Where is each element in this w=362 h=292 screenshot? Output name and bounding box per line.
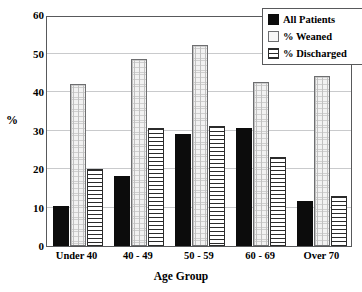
legend-item: % Weaned	[263, 28, 362, 45]
y-axis-tick-label: 10	[4, 202, 44, 214]
y-axis-tick-label: 40	[4, 86, 44, 98]
x-axis-label: Age Group	[0, 270, 362, 282]
legend-swatch-icon	[268, 31, 279, 42]
y-axis-tick-label: 20	[4, 163, 44, 175]
legend-swatch-icon	[268, 48, 279, 59]
y-axis-tick-label: 50	[4, 48, 44, 60]
bar	[331, 196, 347, 246]
y-axis-tick-label: 60	[4, 9, 44, 21]
bar	[297, 201, 313, 246]
legend: All Patients% Weaned% Discharged	[262, 8, 362, 65]
legend-item-label: % Discharged	[283, 48, 347, 59]
bar	[114, 176, 130, 246]
bar	[270, 157, 286, 246]
y-axis-tick-label: 30	[4, 125, 44, 137]
legend-item: % Discharged	[263, 45, 362, 62]
bar	[236, 128, 252, 246]
x-axis-tick-label: 50 - 59	[168, 250, 229, 261]
bar	[148, 128, 164, 246]
bar	[53, 206, 69, 246]
bar	[131, 59, 147, 246]
x-axis-tick-label: Over 70	[291, 250, 352, 261]
bar	[175, 134, 191, 246]
legend-item: All Patients	[263, 11, 362, 28]
legend-item-label: % Weaned	[283, 31, 332, 42]
bar-chart-figure: % 0102030405060 Under 4040 - 4950 - 5960…	[0, 0, 362, 292]
x-axis-tick-label: Under 40	[46, 250, 107, 261]
bar	[209, 126, 225, 247]
bar	[192, 45, 208, 246]
bar	[253, 82, 269, 246]
bar	[314, 76, 330, 246]
x-axis-tick-label: 60 - 69	[230, 250, 291, 261]
bar	[87, 169, 103, 246]
legend-swatch-icon	[268, 14, 279, 25]
y-axis-tick-label: 0	[4, 240, 44, 252]
bar	[70, 84, 86, 246]
x-axis-tick-label: 40 - 49	[107, 250, 168, 261]
legend-item-label: All Patients	[283, 14, 335, 25]
